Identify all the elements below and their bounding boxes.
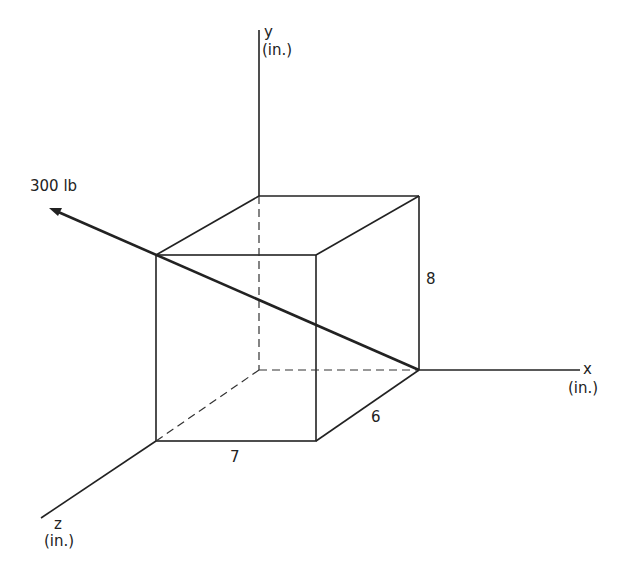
- x-axis-unit: (in.): [568, 380, 598, 396]
- dimension-height: 8: [426, 271, 436, 287]
- x-axis-label: x: [583, 361, 592, 377]
- z-axis-label: z: [54, 516, 62, 532]
- dimension-depth: 6: [371, 409, 381, 425]
- z-axis: [41, 441, 156, 518]
- box-diagram: [0, 0, 628, 576]
- box-edge: [156, 196, 259, 255]
- force-label: 300 lb: [30, 178, 77, 194]
- dimension-width: 7: [230, 449, 240, 465]
- box-edge: [316, 196, 419, 255]
- hidden-edge: [156, 370, 259, 441]
- z-axis-unit: (in.): [44, 533, 74, 549]
- force-arrow: [56, 211, 419, 370]
- y-axis-unit: (in.): [262, 42, 292, 58]
- box-front-face: [156, 255, 316, 441]
- y-axis-label: y: [264, 24, 273, 40]
- box-edge: [316, 370, 419, 441]
